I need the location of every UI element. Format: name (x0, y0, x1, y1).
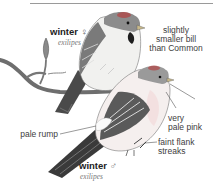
callout-bill: slightly smaller bill than Common (146, 26, 206, 53)
female-season-text: winter (50, 26, 78, 37)
male-label: winter ♂ (79, 160, 117, 171)
callout-rump: pale rump (14, 130, 58, 139)
female-subspecies: exilipes (58, 38, 81, 47)
callout-rump-line-1: pale rump (14, 130, 58, 139)
flank-leader-line (145, 142, 157, 143)
male-symbol-icon: ♂ (110, 160, 117, 171)
callout-flank: faint flank streaks (158, 138, 208, 156)
female-label: winter ♀ (50, 26, 88, 37)
female-symbol-icon: ♀ (81, 26, 88, 37)
callout-bill-line-3: than Common (146, 44, 206, 53)
male-subspecies: exilipes (80, 172, 103, 181)
male-season-text: winter (79, 160, 107, 171)
callout-flank-line-2: streaks (158, 147, 208, 156)
rump-leader-line (60, 126, 96, 134)
breast-leader-line (170, 84, 195, 99)
callout-breast: very pale pink (168, 114, 208, 132)
callout-breast-line-2: pale pink (168, 123, 208, 132)
